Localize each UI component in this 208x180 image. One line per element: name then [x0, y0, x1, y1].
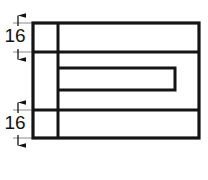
dimension-label-top: 16 — [4, 25, 25, 46]
dimension-label-bottom: 16 — [4, 112, 25, 133]
internal-slot — [58, 68, 175, 90]
drawing-canvas: 16 16 — [0, 0, 208, 180]
technical-drawing: 16 16 — [0, 0, 208, 180]
